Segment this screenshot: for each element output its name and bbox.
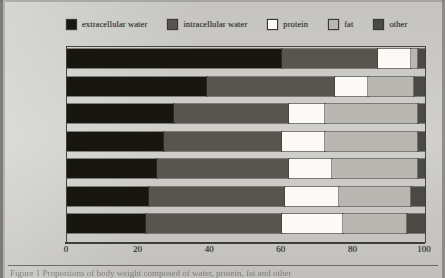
chart-legend: extracellular waterintracellular waterpr… — [66, 16, 426, 32]
bar-segment-extracellular-water — [67, 104, 174, 123]
bar-segment-intracellular-water — [282, 49, 379, 68]
bar-segment-other — [414, 77, 425, 96]
plot-area — [66, 46, 426, 243]
legend-item-protein: protein — [267, 19, 308, 30]
legend-label: protein — [283, 19, 308, 29]
bar-row — [67, 49, 425, 68]
bar-row — [67, 159, 425, 178]
bar-segment-fat — [325, 104, 418, 123]
bar-segment-other — [418, 49, 425, 68]
bar-segment-fat — [411, 49, 418, 68]
x-tick-label: 100 — [417, 244, 431, 254]
x-tick-label: 80 — [348, 244, 357, 254]
bar-segment-protein — [282, 214, 343, 233]
bar-segment-other — [418, 104, 425, 123]
legend-label: fat — [344, 19, 353, 29]
figure-caption: Figure 1 Proportions of body weight comp… — [10, 268, 438, 278]
bar-row — [67, 214, 425, 233]
bar-segment-extracellular-water — [67, 49, 282, 68]
legend-item-fat: fat — [328, 19, 353, 30]
bar-segment-other — [411, 187, 425, 206]
legend-label: extracellular water — [82, 19, 147, 29]
legend-item-other: other — [373, 19, 407, 30]
x-tick-label: 40 — [205, 244, 214, 254]
bar-row — [67, 77, 425, 96]
legend-label: intracellular water — [183, 19, 247, 29]
legend-swatch-intracellular-water — [167, 19, 178, 30]
bar-segment-protein — [282, 132, 325, 151]
bar-segment-intracellular-water — [164, 132, 282, 151]
legend-label: other — [389, 19, 407, 29]
caption-rule — [8, 265, 438, 266]
bar-segment-protein — [335, 77, 367, 96]
bar-segment-other — [407, 214, 425, 233]
legend-item-intracellular-water: intracellular water — [167, 19, 247, 30]
figure-page: extracellular waterintracellular waterpr… — [0, 0, 445, 278]
bar-segment-protein — [289, 104, 325, 123]
bar-segment-extracellular-water — [67, 159, 157, 178]
bar-segment-fat — [339, 187, 411, 206]
bar-row — [67, 104, 425, 123]
legend-swatch-protein — [267, 19, 278, 30]
bar-segment-other — [418, 159, 425, 178]
bar-segment-protein — [289, 159, 332, 178]
x-tick-label: 60 — [276, 244, 285, 254]
bar-segment-fat — [368, 77, 415, 96]
bar-segment-intracellular-water — [146, 214, 282, 233]
bar-row — [67, 132, 425, 151]
legend-swatch-extracellular-water — [66, 19, 77, 30]
bar-segment-extracellular-water — [67, 77, 207, 96]
bar-segment-other — [418, 132, 425, 151]
bar-segment-intracellular-water — [174, 104, 289, 123]
bar-segment-extracellular-water — [67, 187, 149, 206]
bar-row — [67, 187, 425, 206]
bar-segment-intracellular-water — [207, 77, 336, 96]
bar-segment-intracellular-water — [157, 159, 289, 178]
legend-swatch-other — [373, 19, 384, 30]
scan-edge-left-inner — [3, 0, 5, 278]
bar-segment-protein — [285, 187, 339, 206]
x-tick-label: 0 — [64, 244, 69, 254]
bar-segment-fat — [343, 214, 407, 233]
bar-segment-fat — [325, 132, 418, 151]
legend-swatch-fat — [328, 19, 339, 30]
scan-edge-top — [0, 0, 445, 2]
x-tick-label: 20 — [133, 244, 142, 254]
bar-segment-extracellular-water — [67, 214, 146, 233]
bar-segment-fat — [332, 159, 418, 178]
bar-segment-protein — [378, 49, 410, 68]
x-axis-line — [65, 242, 425, 244]
bar-segment-extracellular-water — [67, 132, 164, 151]
bar-segment-intracellular-water — [149, 187, 285, 206]
legend-item-extracellular-water: extracellular water — [66, 19, 147, 30]
